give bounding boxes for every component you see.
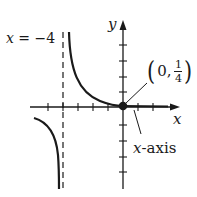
x-axis-callout-label: x-axis	[133, 141, 176, 156]
point-label-x: 0,	[157, 64, 171, 79]
x-axis-leader-line	[134, 110, 141, 134]
x-axis-label: x	[173, 112, 181, 127]
y-axis-label: y	[108, 17, 116, 32]
point-leader-line	[125, 83, 147, 104]
point-label-fraction: 1 4	[174, 59, 182, 84]
asymptote-label-var: x	[6, 30, 14, 46]
x-axis-callout-text: -axis	[141, 139, 176, 157]
y-axis-arrow-icon	[120, 20, 127, 30]
curve-lower-branch	[34, 118, 59, 189]
asymptote-label-value: = −4	[14, 30, 55, 46]
fraction-numerator: 1	[175, 59, 182, 70]
point-label: ( 0, 1 4 )	[146, 58, 194, 84]
fraction-denominator: 4	[175, 73, 182, 84]
point-label-open-paren: (	[147, 58, 155, 84]
point-label-close-paren: )	[184, 58, 192, 84]
asymptote-label: x = −4	[6, 31, 55, 45]
graph-figure: x = −4 y x x-axis ( 0, 1 4 )	[0, 0, 197, 197]
